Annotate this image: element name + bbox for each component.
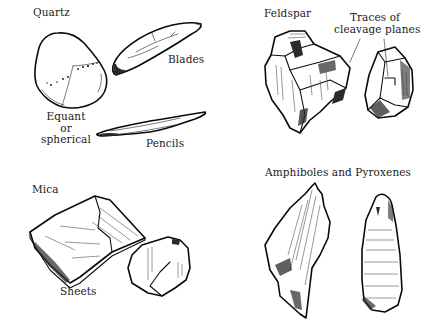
feldspar-large-crystal-drawing bbox=[265, 31, 350, 133]
cleavage-label-line2: cleavage planes bbox=[334, 24, 416, 36]
quartz-title: Quartz bbox=[33, 7, 70, 19]
quartz-blade-grain-drawing bbox=[113, 23, 201, 75]
quartz-equant-grain-drawing bbox=[35, 33, 107, 108]
quartz-pencil-grain-drawing bbox=[97, 112, 206, 136]
mica-title: Mica bbox=[32, 184, 59, 196]
quartz-blades-label: Blades bbox=[168, 54, 204, 66]
feldspar-title: Feldspar bbox=[264, 8, 311, 20]
pyroxene-crystal-drawing bbox=[362, 194, 402, 312]
cleavage-leader-line-left bbox=[350, 39, 360, 62]
quartz-equant-label: Equant or spherical bbox=[40, 111, 92, 146]
cleavage-leader-line-right bbox=[384, 39, 388, 76]
cleavage-label-line1: Traces of bbox=[334, 12, 416, 24]
equant-label-line3: spherical bbox=[40, 134, 92, 146]
mineral-grain-shapes-figure: Quartz Equant or spherical Blades Pencil… bbox=[0, 0, 425, 331]
mica-sheets-label: Sheets bbox=[60, 286, 97, 298]
amphiboles-pyroxenes-title: Amphiboles and Pyroxenes bbox=[265, 167, 411, 179]
mica-large-sheet-drawing bbox=[30, 196, 145, 288]
feldspar-small-crystal-drawing bbox=[365, 47, 413, 118]
amphibole-crystal-drawing bbox=[265, 183, 330, 318]
quartz-pencils-label: Pencils bbox=[146, 138, 184, 150]
cleavage-planes-label: Traces of cleavage planes bbox=[334, 12, 416, 35]
equant-label-line1: Equant bbox=[40, 111, 92, 123]
mica-flake-drawing bbox=[128, 237, 190, 296]
